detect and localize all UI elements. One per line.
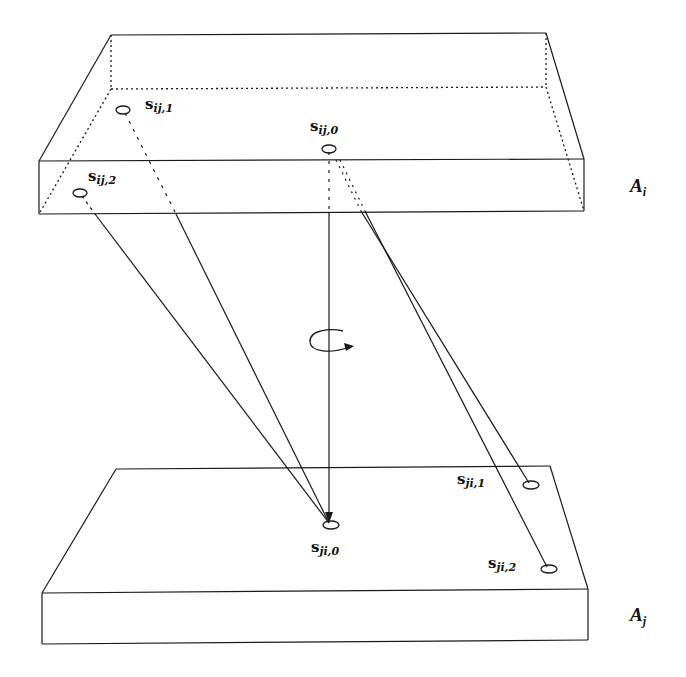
point-s-ij-0 <box>322 145 336 153</box>
diagram-canvas <box>0 0 686 677</box>
label-s-ij-1: sij,1 <box>145 97 173 112</box>
label-s-ji-1: sji,1 <box>457 472 485 487</box>
label-s-ij-0: sij,0 <box>310 119 338 134</box>
slab-label-aj: Aj <box>630 605 646 624</box>
slab-label-ai: Ai <box>630 176 646 195</box>
point-s-ji-0 <box>323 521 339 529</box>
point-markers <box>73 106 557 573</box>
label-s-ij-2: sij,2 <box>88 169 116 184</box>
rotation-arrow-icon <box>310 330 354 351</box>
point-s-ji-2 <box>541 565 557 573</box>
point-s-ij-2 <box>73 189 87 197</box>
label-s-ji-2: sji,2 <box>488 556 516 571</box>
connection-lines <box>82 113 547 567</box>
point-s-ij-1 <box>116 106 130 114</box>
label-s-ji-0: sji,0 <box>311 540 339 555</box>
point-s-ji-1 <box>523 481 539 489</box>
